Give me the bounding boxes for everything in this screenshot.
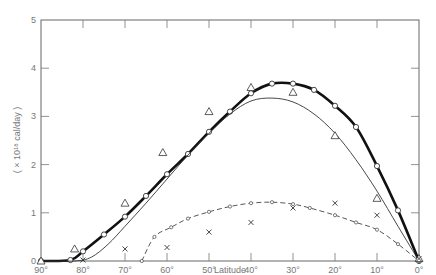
circle-marker [227,109,232,114]
circle-marker [185,151,190,156]
x-tick-label: 30° [286,265,300,275]
x-axis-title: Latitude [214,265,246,275]
x-tick-label: 0° [415,265,424,275]
triangle-marker [121,199,129,206]
circle-marker [101,232,106,237]
triangle-marker [289,88,297,95]
circle-marker [164,172,169,177]
x-tick-label: 90° [34,265,48,275]
circle-marker [311,87,316,92]
small-circle-marker [270,201,273,204]
circle-marker [68,257,73,262]
small-circle-marker [333,214,336,217]
circle-marker [332,103,337,108]
y-tick-label: 0 [31,256,36,266]
circle-marker [290,81,295,86]
plot-frame [41,20,419,261]
y-axis-title: ( × 10¹⁸ cal/day ) [12,107,22,174]
y-tick-label: 3 [31,111,36,121]
small-circle-marker [207,210,210,213]
small-circle-marker [375,228,378,231]
small-circle-marker [140,259,143,262]
circle-marker [353,124,358,129]
x-tick-label: 40° [244,265,258,275]
x-tick-label: 20° [328,265,342,275]
triangle-marker [247,83,255,90]
x-tick-label: 70° [118,265,132,275]
small-circle-marker [249,202,252,205]
y-tick-label: 1 [31,208,36,218]
circle-marker [395,208,400,213]
small-circle-marker [186,217,189,220]
circle-marker [122,214,127,219]
y-tick-label: 4 [31,63,36,73]
triangle-marker [331,132,339,139]
circle-marker [248,91,253,96]
y-tick-label: 5 [31,15,36,25]
small-circle-marker [153,235,156,238]
circle-marker [374,163,379,168]
chart: 90°80°70°60°50°40°30°20°10°0° 012345 Lat… [0,0,436,275]
circle-marker [269,81,274,86]
small-circle-marker [354,221,357,224]
thin-curve [41,98,419,261]
triangle-marker [159,149,167,156]
small-circle-marker [170,226,173,229]
small-circle-marker [396,243,399,246]
x-tick-label: 80° [76,265,90,275]
y-tick-label: 2 [31,160,36,170]
circle-marker [143,193,148,198]
dashed-curve [142,202,419,261]
small-circle-marker [228,205,231,208]
small-circle-marker [308,206,311,209]
x-axis: 90°80°70°60°50°40°30°20°10°0° [34,20,424,275]
plot-border [41,20,419,261]
series-layer [37,81,423,264]
small-circle-marker [291,203,294,206]
x-tick-label: 60° [160,265,174,275]
triangle-marker [71,245,79,252]
circle-marker [80,249,85,254]
x-tick-label: 10° [370,265,384,275]
y-axis: 012345 [31,15,419,266]
triangle-marker [205,108,213,115]
